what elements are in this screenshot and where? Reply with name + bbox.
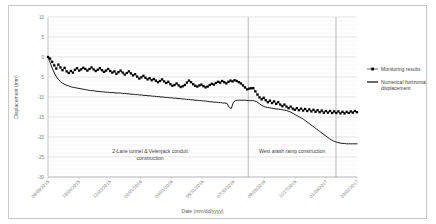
series-monitoring-results-marker: [252, 87, 254, 89]
series-monitoring-results-marker: [200, 83, 202, 85]
series-monitoring-results-marker: [82, 67, 84, 69]
x-tick-label: 02/01/2016: [123, 179, 143, 199]
series-monitoring-results-marker: [72, 71, 74, 73]
legend-label-monitoring-results: Monitoring results: [381, 66, 421, 72]
series-monitoring-results-marker: [327, 111, 329, 113]
series-monitoring-results-marker: [59, 66, 61, 68]
series-monitoring-results-marker: [132, 74, 134, 76]
series-monitoring-results-marker: [256, 93, 258, 95]
series-monitoring-results-marker: [325, 110, 327, 112]
series-monitoring-results-marker: [111, 71, 113, 73]
series-monitoring-results-marker: [74, 69, 76, 71]
series-monitoring-results-marker: [188, 79, 190, 81]
series-monitoring-results-marker: [173, 84, 175, 86]
series-monitoring-results-marker: [236, 80, 238, 82]
series-monitoring-results-marker: [333, 110, 335, 112]
x-tick-label: 05/31/2016: [185, 179, 205, 199]
series-monitoring-results-marker: [70, 70, 72, 72]
series-monitoring-results-marker: [84, 68, 86, 70]
series-monitoring-results-marker: [192, 83, 194, 85]
series-monitoring-results-marker: [231, 80, 233, 82]
series-monitoring-results-marker: [66, 70, 68, 72]
series-monitoring-results-marker: [142, 75, 144, 77]
y-tick-label: 10: [39, 15, 45, 20]
series-monitoring-results-marker: [287, 107, 289, 109]
series-monitoring-results-marker: [136, 75, 138, 77]
series-monitoring-results-marker: [308, 108, 310, 110]
y-tick-label: 0: [41, 55, 44, 60]
series-monitoring-results-marker: [126, 72, 128, 74]
x-tick-label: 07/30/2016: [216, 179, 236, 199]
series-monitoring-results-marker: [184, 84, 186, 86]
displacement-chart: 1050-5-10-15-20-25-30Displacement (mm)08…: [9, 6, 426, 218]
series-monitoring-results-marker: [316, 109, 318, 111]
series-monitoring-results-marker: [213, 83, 215, 85]
x-tick-label: 01/26/2017: [309, 179, 329, 199]
series-monitoring-results-marker: [304, 108, 306, 110]
chart-figure: 1050-5-10-15-20-25-30Displacement (mm)08…: [0, 0, 436, 224]
series-monitoring-results-marker: [61, 69, 63, 71]
series-monitoring-results-marker: [345, 111, 347, 113]
legend-label-numerical-line1: Numerical horizontal: [381, 79, 426, 85]
series-monitoring-results-marker: [298, 109, 300, 111]
series-monitoring-results-marker: [167, 81, 169, 83]
series-monitoring-results-marker: [140, 76, 142, 78]
y-tick-label: -30: [37, 175, 44, 180]
series-monitoring-results-marker: [269, 99, 271, 101]
series-monitoring-results-marker: [229, 79, 231, 81]
series-monitoring-results-marker: [196, 85, 198, 87]
series-monitoring-results-marker: [250, 87, 252, 89]
x-tick-label: 09/28/2016: [247, 179, 267, 199]
series-monitoring-results-marker: [68, 72, 70, 74]
series-monitoring-results-marker: [190, 81, 192, 83]
series-monitoring-results-marker: [341, 111, 343, 113]
series-monitoring-results-marker: [271, 102, 273, 104]
annotation-right-line1: West arash ramp construction: [259, 148, 326, 154]
series-monitoring-results-marker: [277, 101, 279, 103]
series-monitoring-results-marker: [115, 73, 117, 75]
series-monitoring-results-marker: [337, 110, 339, 112]
series-monitoring-results-marker: [105, 69, 107, 71]
series-monitoring-results-marker: [78, 69, 80, 71]
series-monitoring-results-marker: [219, 81, 221, 83]
series-monitoring-results-marker: [153, 78, 155, 80]
series-monitoring-results-marker: [76, 67, 78, 69]
x-tick-label: 10/04/2015: [61, 179, 81, 199]
series-monitoring-results-marker: [343, 112, 345, 114]
series-monitoring-results-marker: [57, 63, 59, 65]
series-monitoring-results-marker: [350, 110, 352, 112]
series-monitoring-results-marker: [289, 105, 291, 107]
y-axis-title: Displacement (mm): [13, 75, 19, 119]
series-monitoring-results-marker: [178, 84, 180, 86]
series-monitoring-results-marker: [275, 103, 277, 105]
x-tick-label: 04/01/2016: [154, 179, 174, 199]
series-monitoring-results-marker: [151, 79, 153, 81]
series-monitoring-results-marker: [300, 107, 302, 109]
series-monitoring-results-marker: [204, 86, 206, 88]
series-monitoring-results-marker: [273, 100, 275, 102]
series-monitoring-results-marker: [352, 111, 354, 113]
series-monitoring-results-marker: [130, 72, 132, 74]
annotation-left-line2: construction: [136, 155, 163, 161]
series-monitoring-results-marker: [207, 85, 209, 87]
series-monitoring-results-marker: [119, 69, 121, 71]
series-monitoring-results-marker: [215, 82, 217, 84]
series-monitoring-results-marker: [202, 85, 204, 87]
y-tick-label: 5: [41, 35, 44, 40]
legend-label-numerical-line2: displacement: [381, 85, 411, 91]
series-monitoring-results-marker: [175, 82, 177, 84]
series-monitoring-results-marker: [86, 69, 88, 71]
series-monitoring-results-marker: [329, 110, 331, 112]
series-monitoring-results-marker: [285, 105, 287, 107]
series-monitoring-results-marker: [55, 67, 57, 69]
series-monitoring-results-marker: [279, 103, 281, 105]
y-tick-label: -15: [37, 115, 44, 120]
series-monitoring-results-marker: [155, 79, 157, 81]
series-monitoring-results-marker: [97, 69, 99, 71]
series-monitoring-results-marker: [321, 109, 323, 111]
series-monitoring-results-marker: [198, 84, 200, 86]
series-monitoring-results-marker: [281, 105, 283, 107]
annotation-left-line1: 2-Lane tunnel & Velenjack conduit: [112, 148, 188, 154]
series-monitoring-results-marker: [238, 81, 240, 83]
series-monitoring-results-marker: [124, 73, 126, 75]
